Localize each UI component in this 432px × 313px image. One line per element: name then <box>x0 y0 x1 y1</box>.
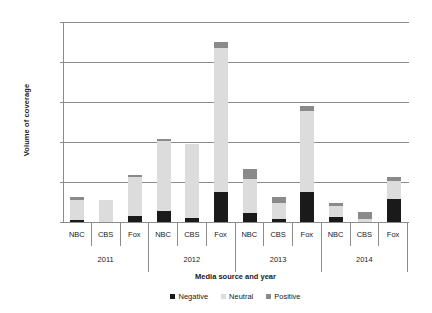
legend-label: Positive <box>274 292 300 301</box>
bar-segment-neu <box>157 141 171 211</box>
stacked-bar[interactable] <box>214 42 228 222</box>
stacked-bar[interactable] <box>157 139 171 222</box>
legend-item-positive[interactable]: Positive <box>266 292 300 301</box>
bar-segment-neg <box>214 192 228 222</box>
category-label-fox-5: Fox <box>207 223 236 246</box>
bar-slot <box>293 22 322 222</box>
bar-slot <box>379 22 408 222</box>
year-axis: 2011201220132014 <box>63 246 408 272</box>
year-label-2014: 2014 <box>322 246 408 272</box>
category-label-cbs-10: CBS <box>351 223 380 246</box>
chart-legend: NegativeNeutralPositive <box>63 292 408 301</box>
category-label-cbs-1: CBS <box>92 223 121 246</box>
stacked-bar[interactable] <box>300 106 314 222</box>
category-label-nbc-0: NBC <box>63 223 92 246</box>
stacked-bar[interactable] <box>387 177 401 222</box>
legend-swatch-neutral-icon <box>221 294 226 299</box>
bar-segment-neg <box>387 199 401 222</box>
bar-slot <box>63 22 92 222</box>
category-label-nbc-3: NBC <box>149 223 178 246</box>
bar-slot <box>236 22 265 222</box>
stacked-bar[interactable] <box>99 200 113 222</box>
category-label-fox-2: Fox <box>121 223 150 246</box>
bar-slot <box>322 22 351 222</box>
bar-segment-neu <box>185 144 199 218</box>
year-label-2011: 2011 <box>63 246 149 272</box>
bar-slot <box>351 22 380 222</box>
year-label-2013: 2013 <box>236 246 322 272</box>
bar-slot <box>178 22 207 222</box>
bar-slot <box>264 22 293 222</box>
bar-segment-pos <box>243 169 257 179</box>
legend-label: Negative <box>178 292 208 301</box>
bar-segment-neu <box>99 200 113 222</box>
stacked-bar[interactable] <box>185 144 199 222</box>
legend-swatch-negative-icon <box>170 294 175 299</box>
bar-segment-neu <box>329 206 343 217</box>
bar-slot <box>92 22 121 222</box>
stacked-bar-chart: Volume of coverage 050100150200250 NBCCB… <box>0 0 432 313</box>
bar-segment-neu <box>70 200 84 220</box>
bar-segment-neu <box>214 48 228 192</box>
stacked-bar[interactable] <box>329 203 343 222</box>
bar-segment-neu <box>272 203 286 219</box>
category-label-cbs-4: CBS <box>178 223 207 246</box>
bar-segment-neu <box>128 177 142 216</box>
bar-segment-neg <box>300 192 314 222</box>
bar-segment-neg <box>157 211 171 222</box>
bars-layer <box>63 22 408 222</box>
legend-label: Neutral <box>229 292 253 301</box>
category-label-fox-11: Fox <box>379 223 408 246</box>
legend-item-negative[interactable]: Negative <box>170 292 208 301</box>
stacked-bar[interactable] <box>272 197 286 222</box>
x-axis-title: Media source and year <box>63 272 408 281</box>
category-label-cbs-7: CBS <box>264 223 293 246</box>
stacked-bar[interactable] <box>70 197 84 222</box>
stacked-bar[interactable] <box>243 169 257 222</box>
year-label-2012: 2012 <box>149 246 235 272</box>
legend-item-neutral[interactable]: Neutral <box>221 292 253 301</box>
stacked-bar[interactable] <box>128 175 142 222</box>
stacked-bar[interactable] <box>358 212 372 222</box>
bar-slot <box>207 22 236 222</box>
category-label-fox-8: Fox <box>293 223 322 246</box>
category-label-nbc-9: NBC <box>322 223 351 246</box>
bar-segment-neu <box>300 111 314 193</box>
category-axis: NBCCBSFoxNBCCBSFoxNBCCBSFoxNBCCBSFox <box>63 222 408 246</box>
bar-segment-neu <box>243 179 257 213</box>
legend-swatch-positive-icon <box>266 294 271 299</box>
category-label-nbc-6: NBC <box>236 223 265 246</box>
bar-segment-neg <box>243 213 257 222</box>
bar-slot <box>121 22 150 222</box>
bar-slot <box>149 22 178 222</box>
bar-segment-neu <box>387 181 401 199</box>
y-axis-title: Volume of coverage <box>22 0 36 50</box>
